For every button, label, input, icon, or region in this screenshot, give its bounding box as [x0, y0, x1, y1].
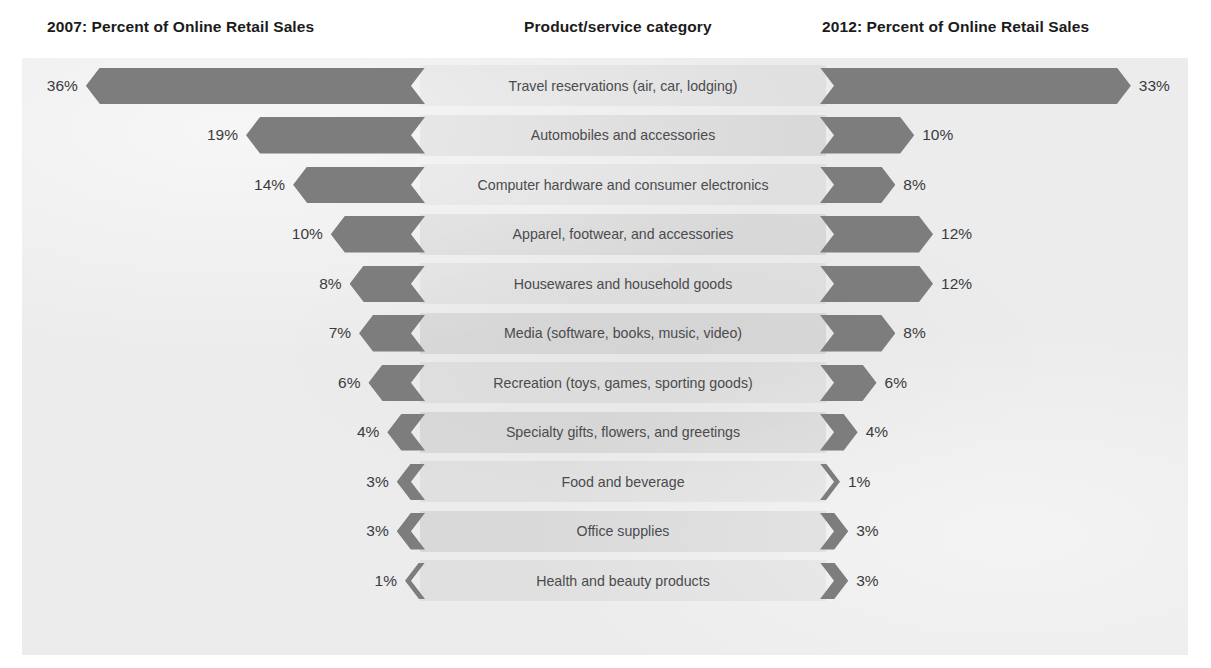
bar-right-1 [820, 117, 914, 154]
category-label-9: Office supplies [420, 507, 826, 557]
category-label-6: Recreation (toys, games, sporting goods) [420, 358, 826, 408]
value-right-8: 1% [848, 457, 938, 507]
value-right-0: 33% [1139, 61, 1211, 111]
value-left-10: 1% [22, 556, 397, 606]
category-label-10: Health and beauty products [420, 556, 826, 606]
value-right-10: 3% [856, 556, 946, 606]
value-right-6: 6% [885, 358, 975, 408]
value-right-1: 10% [922, 111, 1012, 161]
value-right-3: 12% [941, 210, 1031, 260]
bar-right-6 [820, 365, 877, 402]
category-label-1: Automobiles and accessories [420, 111, 826, 161]
category-label-2: Computer hardware and consumer electroni… [420, 160, 826, 210]
value-left-0: 36% [22, 61, 78, 111]
value-left-6: 6% [22, 358, 360, 408]
category-label-5: Media (software, books, music, video) [420, 309, 826, 359]
value-right-2: 8% [903, 160, 993, 210]
value-right-9: 3% [856, 507, 946, 557]
chart-row: 14%Computer hardware and consumer electr… [22, 160, 1188, 210]
chart-row: 10%Apparel, footwear, and accessories12% [22, 210, 1188, 260]
bar-left-3 [331, 216, 425, 253]
chart-row: 1%Health and beauty products3% [22, 556, 1188, 606]
value-left-8: 3% [22, 457, 389, 507]
category-label-8: Food and beverage [420, 457, 826, 507]
bar-left-5 [359, 315, 425, 352]
value-left-9: 3% [22, 507, 389, 557]
bar-left-1 [246, 117, 425, 154]
value-right-4: 12% [941, 259, 1031, 309]
bar-right-3 [820, 216, 933, 253]
category-label-0: Travel reservations (air, car, lodging) [420, 61, 826, 111]
category-label-4: Housewares and household goods [420, 259, 826, 309]
bar-left-4 [350, 266, 425, 303]
chart-header: 2007: Percent of Online Retail Sales Pro… [0, 0, 1211, 58]
right-series-header: 2012: Percent of Online Retail Sales [822, 18, 1089, 36]
bar-right-0 [820, 68, 1131, 105]
chart-row: 6%Recreation (toys, games, sporting good… [22, 358, 1188, 408]
value-left-3: 10% [22, 210, 323, 260]
left-series-header: 2007: Percent of Online Retail Sales [47, 18, 314, 36]
chart-row: 3%Office supplies3% [22, 507, 1188, 557]
value-left-2: 14% [22, 160, 285, 210]
value-left-4: 8% [22, 259, 342, 309]
value-right-7: 4% [866, 408, 956, 458]
bar-left-0 [86, 68, 425, 105]
chart-row: 7%Media (software, books, music, video)8… [22, 309, 1188, 359]
value-right-5: 8% [903, 309, 993, 359]
bar-right-5 [820, 315, 895, 352]
bar-right-2 [820, 167, 895, 204]
bar-left-6 [368, 365, 425, 402]
category-label-3: Apparel, footwear, and accessories [420, 210, 826, 260]
chart-row: 36%Travel reservations (air, car, lodgin… [22, 61, 1188, 111]
value-left-1: 19% [22, 111, 238, 161]
chart-row: 3%Food and beverage1% [22, 457, 1188, 507]
chart-panel: 36%Travel reservations (air, car, lodgin… [22, 58, 1188, 655]
chart-row: 19%Automobiles and accessories10% [22, 111, 1188, 161]
category-column-header: Product/service category [524, 18, 712, 36]
bar-right-4 [820, 266, 933, 303]
value-left-5: 7% [22, 309, 351, 359]
chart-row: 8%Housewares and household goods12% [22, 259, 1188, 309]
chart-row: 4%Specialty gifts, flowers, and greeting… [22, 408, 1188, 458]
bar-left-2 [293, 167, 425, 204]
category-label-7: Specialty gifts, flowers, and greetings [420, 408, 826, 458]
value-left-7: 4% [22, 408, 379, 458]
